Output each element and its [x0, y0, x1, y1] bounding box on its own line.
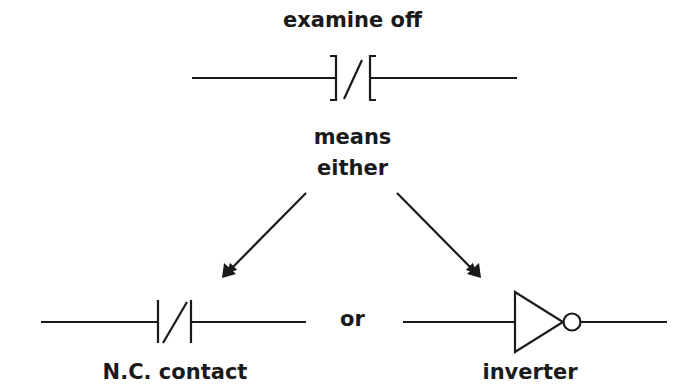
or-label: or: [330, 307, 375, 331]
arrows: [228, 193, 475, 272]
inverter-symbol: [403, 292, 667, 352]
nc-contact-label: N.C. contact: [95, 360, 255, 384]
examine-off-symbol: [192, 56, 517, 100]
nc-contact-symbol: [41, 300, 306, 343]
right-arrow: [397, 193, 475, 272]
means-label: means: [300, 125, 405, 149]
either-label: either: [300, 156, 405, 180]
left-arrow: [228, 193, 306, 272]
inverter-label: inverter: [470, 360, 590, 384]
title-label: examine off: [280, 8, 425, 32]
